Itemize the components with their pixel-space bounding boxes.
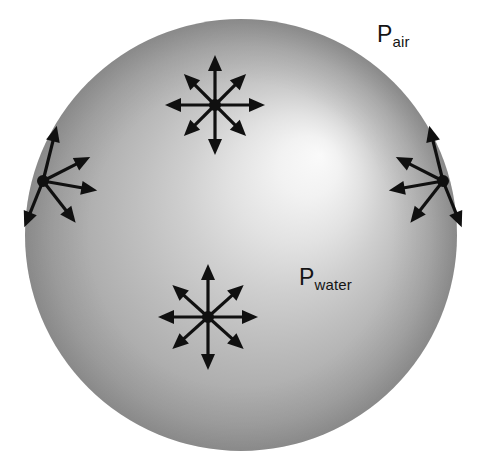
arrow-cluster-origin-dot [209, 99, 221, 111]
label-p-water: Pwater [299, 266, 352, 289]
arrow-cluster-origin-dot [37, 175, 49, 187]
label-p-air-base: P [377, 21, 393, 47]
label-p-water-subscript: water [315, 276, 352, 293]
label-p-air: Pair [377, 23, 410, 46]
diagram-canvas [0, 0, 485, 471]
label-p-air-subscript: air [393, 33, 410, 50]
label-p-water-base: P [299, 264, 315, 290]
pressure-diagram-figure: Pair Pwater [0, 0, 485, 471]
arrow-cluster-origin-dot [437, 175, 449, 187]
arrow-cluster-origin-dot [202, 311, 214, 323]
